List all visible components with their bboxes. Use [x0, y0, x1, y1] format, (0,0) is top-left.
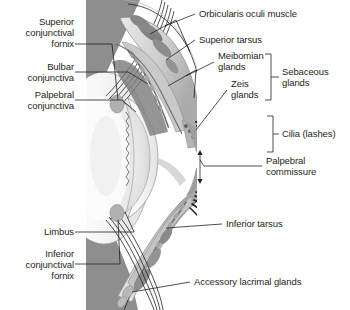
label-bulbar-conjunctiva: Bulbar conjunctiva	[0, 61, 74, 83]
label-palpebral-conjunctiva: Palpebral conjunctiva	[0, 89, 74, 111]
cilia-lower	[190, 192, 246, 242]
commissure-arrow-head-down	[197, 179, 202, 184]
label-accessory-lacrimal-glands: Accessory lacrimal glands	[194, 276, 301, 287]
sebaceous-glands-bracket	[265, 54, 271, 100]
label-palpebral-commissure: Palpebral commissure	[266, 155, 316, 177]
leader-zeis-glands	[196, 90, 227, 130]
label-inferior-conjunctival-fornix: Inferior conjunctival fornix	[0, 248, 74, 282]
superior-fornix-pocket	[110, 95, 124, 113]
label-orbicularis-oculi-muscle: Orbicularis oculi muscle	[199, 8, 297, 19]
commissure-arrow-head-up	[197, 150, 202, 155]
label-sebaceous-glands: Sebaceous glands	[282, 66, 329, 88]
label-superior-conjunctival-fornix: Superior conjunctival fornix	[0, 16, 74, 50]
label-inferior-tarsus: Inferior tarsus	[226, 218, 283, 229]
illustration-body	[56, 0, 261, 310]
label-cilia-lashes: Cilia (lashes)	[282, 128, 336, 139]
inferior-fornix-pocket	[110, 205, 124, 222]
cilia-bracket	[267, 116, 273, 152]
label-zeis-glands: Zeis glands	[231, 78, 258, 100]
label-limbus: Limbus	[0, 226, 74, 237]
label-superior-tarsus: Superior tarsus	[199, 34, 262, 45]
leader-palpebral-commissure	[200, 160, 262, 166]
label-meibomian-glands: Meibomian glands	[218, 50, 264, 72]
cilia-upper	[196, 106, 261, 168]
sclera-inner-shade	[90, 116, 122, 196]
